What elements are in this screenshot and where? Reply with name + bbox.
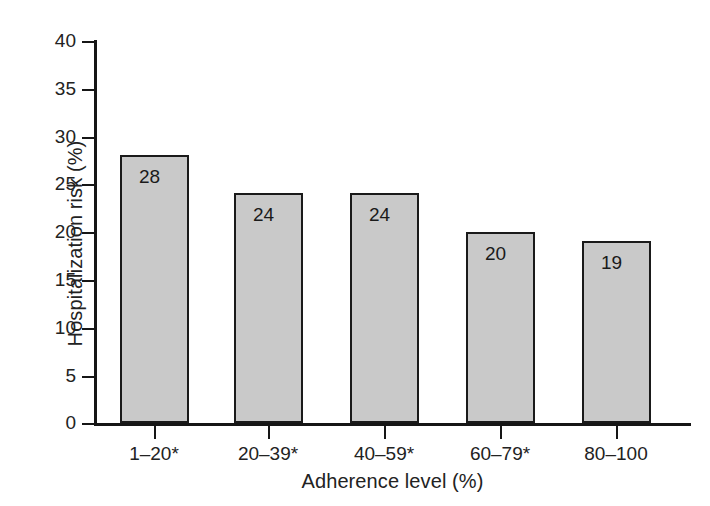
bar-value-label: 24 (369, 205, 390, 224)
y-tick-label: 20 (24, 222, 76, 241)
y-tick-label: 35 (24, 79, 76, 98)
y-tick-mark (82, 328, 95, 330)
bar-40-59 (350, 193, 419, 423)
y-tick-label: 5 (24, 366, 76, 385)
y-tick-label: 10 (24, 318, 76, 337)
x-tick-mark (500, 426, 502, 439)
y-tick-mark (82, 184, 95, 186)
x-tick-label: 1–20* (94, 444, 214, 463)
y-tick-mark (82, 280, 95, 282)
bar-value-label: 20 (485, 244, 506, 263)
x-tick-mark (384, 426, 386, 439)
x-tick-label: 80–100 (556, 444, 676, 463)
y-tick-label: 25 (24, 174, 76, 193)
x-tick-label: 40–59* (324, 444, 444, 463)
y-tick-label: 0 (24, 413, 76, 432)
bar-20-39 (234, 193, 303, 423)
bar-value-label: 24 (253, 205, 274, 224)
x-axis-title: Adherence level (%) (95, 470, 690, 493)
bar-value-label: 28 (139, 167, 160, 186)
bar-chart: Hospitalization risk (%) 40 35 30 25 20 … (0, 0, 710, 506)
y-tick-label: 30 (24, 127, 76, 146)
y-tick-label: 15 (24, 270, 76, 289)
x-tick-mark (268, 426, 270, 439)
y-tick-mark (82, 89, 95, 91)
y-tick-mark (82, 41, 95, 43)
x-axis-line (94, 423, 691, 426)
y-tick-mark (82, 232, 95, 234)
bar-1-20 (120, 155, 189, 423)
x-tick-label: 20–39* (208, 444, 328, 463)
x-tick-mark (616, 426, 618, 439)
y-tick-mark (82, 423, 95, 425)
y-tick-mark (82, 137, 95, 139)
y-tick-mark (82, 376, 95, 378)
y-tick-label: 40 (24, 31, 76, 50)
x-tick-mark (154, 426, 156, 439)
bar-value-label: 19 (601, 253, 622, 272)
y-axis-title: Hospitalization risk (%) (64, 74, 87, 414)
x-tick-label: 60–79* (440, 444, 560, 463)
